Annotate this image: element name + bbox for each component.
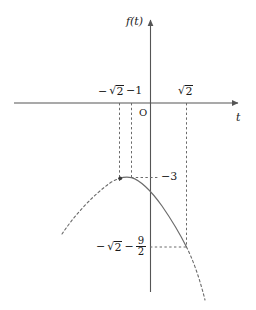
sqrt-icon: √2 — [107, 241, 122, 253]
radical-sign: √ — [109, 85, 116, 96]
origin-label: O — [139, 108, 147, 118]
sqrt-icon: √2 — [109, 85, 124, 97]
tick-label-pos-sqrt2: √2 — [178, 85, 193, 97]
tick-label-neg-one: −1 — [126, 85, 142, 96]
f-axis-label: f(t) — [126, 16, 143, 27]
radicand: 2 — [114, 241, 123, 253]
radicand: 2 — [116, 85, 125, 97]
fraction-numerator: 9 — [136, 236, 146, 246]
plot-canvas — [0, 0, 256, 310]
fraction-denominator: 2 — [136, 246, 146, 257]
curve-dashed-left — [62, 178, 120, 234]
vertex-point-marker — [118, 176, 122, 180]
radical-sign: √ — [107, 241, 114, 252]
value-label-endpoint: − √2 − 9 2 — [96, 236, 146, 258]
t-axis-label: t — [236, 112, 240, 123]
curve-dashed-right — [187, 247, 206, 300]
tick-label-neg-sqrt2: − √2 — [98, 85, 124, 97]
value-label-neg-three: −3 — [161, 171, 177, 182]
minus-sign: − — [98, 86, 107, 97]
radical-sign: √ — [178, 85, 185, 96]
minus-sign-leading: − — [96, 241, 105, 252]
fraction-nine-halves: 9 2 — [136, 236, 146, 258]
math-figure: f(t) t O − √2 −1 √2 −3 − √2 − 9 2 — [0, 0, 256, 310]
radicand: 2 — [185, 85, 194, 97]
minus-sign-middle: − — [124, 241, 133, 252]
sqrt-icon: √2 — [178, 85, 193, 97]
